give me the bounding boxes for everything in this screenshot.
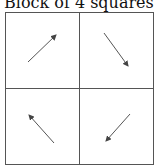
square-bottom-right bbox=[106, 114, 130, 141]
arrow-up-left-icon bbox=[29, 115, 54, 143]
square-top-right bbox=[104, 33, 128, 66]
arrow-up-right-icon bbox=[28, 35, 56, 62]
arrow-down-left-icon bbox=[106, 114, 130, 141]
square-bottom-left bbox=[29, 115, 54, 143]
squares-grid bbox=[0, 0, 157, 168]
arrow-down-right-icon bbox=[104, 33, 128, 66]
square-top-left bbox=[28, 35, 56, 62]
